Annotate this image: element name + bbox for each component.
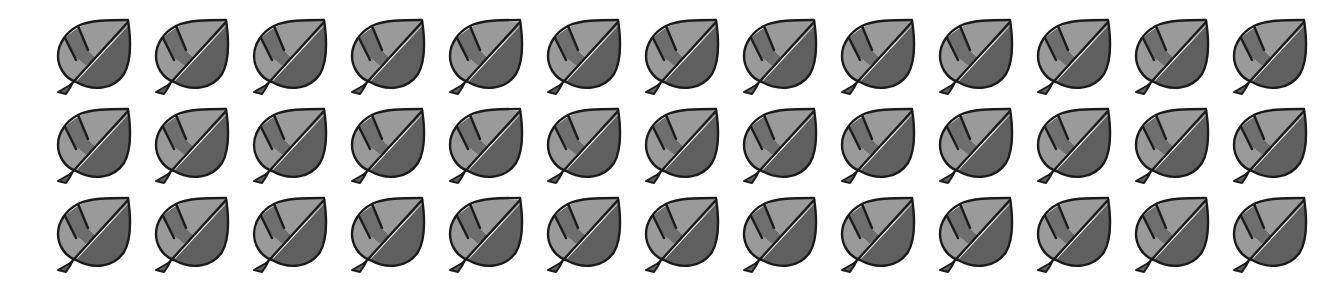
leaf-icon [1228,103,1308,185]
leaf-icon [52,192,132,274]
leaf-item [738,192,836,281]
leaf-item [150,14,248,103]
leaf-item [52,14,150,103]
leaf-icon [738,192,818,274]
leaf-item [542,192,640,281]
leaf-icon [346,192,426,274]
leaf-item [1130,103,1228,192]
leaf-icon [1130,192,1210,274]
leaf-icon [248,192,328,274]
leaf-item [248,192,346,281]
leaf-icon [1130,103,1210,185]
leaf-item [738,14,836,103]
leaf-icon [542,103,622,185]
leaf-icon [738,14,818,96]
leaf-grid [52,14,1326,281]
leaf-icon [444,192,524,274]
leaf-icon [1228,192,1308,274]
leaf-item [1228,192,1326,281]
leaf-icon [248,103,328,185]
leaf-item [1032,14,1130,103]
leaf-icon [444,103,524,185]
leaf-icon [542,192,622,274]
leaf-icon [934,14,1014,96]
leaf-icon [934,103,1014,185]
leaf-icon [1032,14,1112,96]
leaf-item [640,103,738,192]
leaf-item [346,103,444,192]
leaf-item [738,103,836,192]
leaf-item [444,103,542,192]
leaf-icon [248,14,328,96]
leaf-item [444,14,542,103]
leaf-item [934,192,1032,281]
leaf-icon [52,14,132,96]
leaf-item [1032,192,1130,281]
leaf-icon [150,14,230,96]
leaf-icon [640,192,720,274]
leaf-item [1228,103,1326,192]
leaf-item [1130,192,1228,281]
leaf-item [346,192,444,281]
leaf-icon [542,14,622,96]
leaf-item [52,103,150,192]
leaf-item [934,103,1032,192]
leaf-icon [150,192,230,274]
leaf-item [150,103,248,192]
leaf-icon [934,192,1014,274]
leaf-icon [150,103,230,185]
leaf-item [346,14,444,103]
leaf-item [248,103,346,192]
leaf-item [150,192,248,281]
leaf-icon [52,103,132,185]
leaf-item [542,14,640,103]
leaf-icon [836,103,916,185]
leaf-item [1228,14,1326,103]
leaf-item [52,192,150,281]
leaf-item [836,192,934,281]
leaf-icon [346,14,426,96]
leaf-icon [346,103,426,185]
leaf-icon [1032,192,1112,274]
leaf-icon [836,192,916,274]
leaf-item [836,14,934,103]
leaf-item [836,103,934,192]
leaf-icon [640,14,720,96]
leaf-item [934,14,1032,103]
leaf-item [248,14,346,103]
leaf-icon [836,14,916,96]
leaf-icon [640,103,720,185]
leaf-item [542,103,640,192]
leaf-item [640,192,738,281]
leaf-icon [1228,14,1308,96]
leaf-item [1130,14,1228,103]
leaf-item [444,192,542,281]
leaf-icon [444,14,524,96]
leaf-icon [1032,103,1112,185]
leaf-icon [738,103,818,185]
leaf-icon [1130,14,1210,96]
leaf-item [1032,103,1130,192]
leaf-item [640,14,738,103]
